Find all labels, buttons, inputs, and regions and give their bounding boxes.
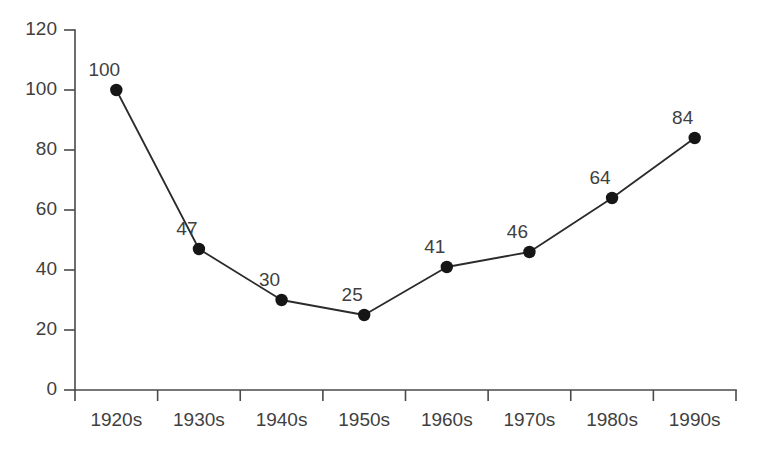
- data-point-marker: [193, 243, 205, 255]
- y-axis-tick-label: 120: [25, 18, 57, 39]
- data-point-label: 46: [507, 221, 528, 242]
- data-point-label: 84: [672, 107, 694, 128]
- data-point-marker: [358, 309, 370, 321]
- chart-canvas: 020406080100120 1920s1930s1940s1950s1960…: [0, 0, 768, 454]
- x-axis-tick-label: 1920s: [90, 409, 142, 430]
- data-point-markers: [110, 84, 701, 321]
- y-axis-tick-label: 60: [36, 198, 57, 219]
- x-axis-tick-label: 1930s: [173, 409, 225, 430]
- data-point-label: 100: [88, 59, 120, 80]
- data-point-marker: [688, 132, 700, 144]
- x-axis-ticks: [75, 390, 653, 401]
- data-point-label: 64: [589, 167, 611, 188]
- x-axis-tick-label: 1980s: [586, 409, 638, 430]
- y-axis-ticks: [64, 30, 75, 390]
- x-axis-tick-label: 1950s: [338, 409, 390, 430]
- y-axis-tick-label: 0: [46, 378, 57, 399]
- data-point-value-labels: 10047302541466484: [88, 59, 693, 305]
- chart-axes: [75, 30, 736, 401]
- data-point-marker: [275, 294, 287, 306]
- data-point-marker: [441, 261, 453, 273]
- data-point-marker: [110, 84, 122, 96]
- y-axis-tick-label: 20: [36, 318, 57, 339]
- x-axis-tick-label: 1970s: [504, 409, 556, 430]
- y-axis-tick-label: 80: [36, 138, 57, 159]
- x-axis-tick-label: 1940s: [256, 409, 308, 430]
- data-point-marker: [606, 192, 618, 204]
- data-point-marker: [523, 246, 535, 258]
- y-axis-tick-label: 40: [36, 258, 57, 279]
- data-point-label: 47: [176, 218, 197, 239]
- y-axis-tick-labels: 020406080100120: [25, 18, 57, 399]
- x-axis-tick-label: 1990s: [669, 409, 721, 430]
- y-axis-tick-label: 100: [25, 78, 57, 99]
- x-axis-tick-labels: 1920s1930s1940s1950s1960s1970s1980s1990s: [90, 409, 720, 430]
- data-point-label: 30: [259, 269, 280, 290]
- line-chart: 020406080100120 1920s1930s1940s1950s1960…: [0, 0, 768, 454]
- data-point-label: 41: [424, 236, 445, 257]
- data-point-label: 25: [342, 284, 363, 305]
- x-axis-tick-label: 1960s: [421, 409, 473, 430]
